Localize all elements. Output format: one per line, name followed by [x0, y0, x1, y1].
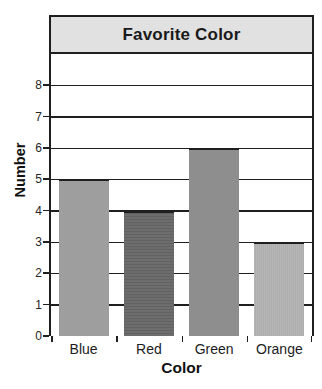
y-tick-label-2: 2 [0, 266, 42, 280]
bar-orange [254, 242, 304, 336]
gridline-y-6 [51, 148, 312, 150]
y-tick-mark-1 [43, 304, 49, 306]
bar-blue [59, 179, 109, 336]
y-tick-mark-0 [43, 335, 49, 337]
y-tick-label-1: 1 [0, 298, 42, 312]
gridline-y-8 [51, 85, 312, 87]
y-tick-mark-5 [43, 178, 49, 180]
favorite-color-bar-chart: Favorite Color 012345678 Number BlueRedG… [0, 0, 322, 389]
y-tick-label-4: 4 [0, 204, 42, 218]
y-tick-mark-4 [43, 210, 49, 212]
y-tick-label-0: 0 [0, 329, 42, 343]
bar-red [124, 211, 174, 336]
bar-green [189, 148, 239, 336]
y-tick-mark-2 [43, 272, 49, 274]
y-tick-label-7: 7 [0, 110, 42, 124]
y-tick-mark-3 [43, 241, 49, 243]
x-category-label-green: Green [195, 341, 234, 357]
x-axis-title: Color [49, 359, 314, 377]
gridline-y-7 [51, 116, 312, 118]
x-category-label-blue: Blue [70, 341, 98, 357]
y-tick-mark-7 [43, 116, 49, 118]
x-axis-category-labels: BlueRedGreenOrange [51, 341, 312, 358]
plot-area [51, 54, 312, 336]
y-axis-title: Number [12, 143, 28, 198]
chart-title-banner: Favorite Color [51, 17, 312, 54]
x-category-label-orange: Orange [256, 341, 303, 357]
y-tick-label-8: 8 [0, 78, 42, 92]
y-tick-mark-8 [43, 84, 49, 86]
chart-title: Favorite Color [122, 25, 240, 45]
y-tick-label-3: 3 [0, 235, 42, 249]
chart-frame: Favorite Color [49, 15, 314, 336]
x-category-label-red: Red [136, 341, 162, 357]
y-tick-mark-6 [43, 147, 49, 149]
